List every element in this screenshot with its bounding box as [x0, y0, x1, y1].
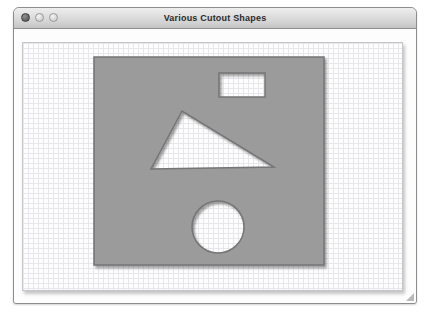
gray-square-with-cutouts	[94, 57, 324, 265]
resize-grip[interactable]	[406, 293, 414, 301]
window-title: Various Cutout Shapes	[14, 8, 416, 28]
content-area	[14, 29, 416, 303]
app-window: Various Cutout Shapes	[13, 7, 417, 304]
cutout-shapes-svg	[23, 43, 402, 290]
title-bar[interactable]: Various Cutout Shapes	[14, 8, 416, 29]
graph-paper-canvas	[22, 42, 403, 291]
